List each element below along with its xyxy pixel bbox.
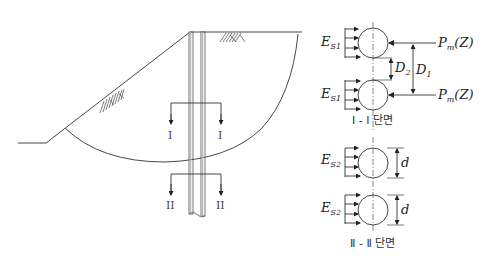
section-II-caption: Ⅱ - Ⅱ 단면 [350, 237, 395, 250]
d2-label: D2 [394, 60, 411, 77]
pm-label-1: Pm(Z) [437, 35, 474, 52]
d-label-1: d [401, 155, 409, 170]
d-label-2: d [401, 202, 409, 217]
section-marker-I: I I [168, 103, 222, 142]
pile [189, 32, 205, 217]
section-I-label-right: I [218, 129, 222, 142]
diagram-canvas: I I II II ES1 ES1 [0, 0, 482, 259]
es1-label-2: ES1 [320, 86, 341, 103]
d1-label: D1 [415, 62, 432, 79]
soil-hatch-top-icon [220, 33, 245, 42]
section-II-label-right: II [216, 199, 225, 212]
section-marker-II: II II [166, 174, 225, 212]
section-II-label-left: II [166, 199, 175, 212]
pm-label-2: Pm(Z) [437, 87, 474, 104]
ground-surface [18, 32, 302, 143]
es2-label-2: ES2 [320, 200, 341, 217]
es2-label-1: ES2 [320, 152, 341, 169]
section-I-detail: ES1 ES1 Pm(Z) Pm(Z) D1 D2 Ⅰ - Ⅰ 단면 [320, 22, 474, 132]
section-I-label-left: I [168, 129, 172, 142]
section-I-caption: Ⅰ - Ⅰ 단면 [352, 114, 393, 127]
slip-surface [65, 34, 298, 162]
section-II-detail: ES2 ES2 d d Ⅱ - Ⅱ 단면 [320, 137, 409, 250]
es1-label-1: ES1 [320, 34, 341, 51]
